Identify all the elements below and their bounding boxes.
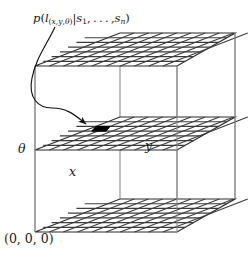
probability-formula-label: p(l(x,y,θ)|s1, . . . ,sn) [33,13,130,26]
origin-label: (0, 0, 0) [4,233,54,246]
axis-label-theta: θ [18,143,26,156]
axis-label-x: x [69,166,76,179]
callout-arrow [31,27,86,124]
bottom-plane [35,199,248,232]
axis-label-y: y [145,140,152,153]
pose-belief-grid-figure: p(l(x,y,θ)|s1, . . . ,sn) (0, 0, 0) θ x … [0,0,249,260]
middle-plane [35,117,248,150]
top-plane [35,33,248,66]
figure-canvas [0,0,249,260]
